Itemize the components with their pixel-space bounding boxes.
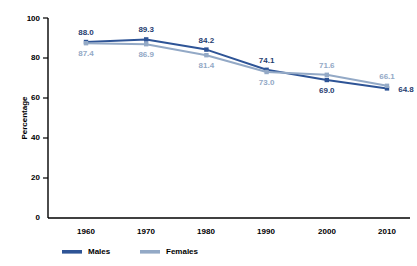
data-point-marker (325, 78, 329, 82)
data-point-marker (204, 53, 208, 57)
x-tick-label-1960: 1960 (77, 227, 95, 236)
data-point-marker (325, 73, 329, 77)
chart-container: 100 80 60 40 20 0 Percentage 1960 1970 1… (0, 0, 417, 266)
x-tick-label-1980: 1980 (197, 227, 215, 236)
legend-swatch-males (62, 250, 82, 254)
x-tick-label-1990: 1990 (257, 227, 275, 236)
x-tick-label-1970: 1970 (137, 227, 155, 236)
data-point-marker (144, 37, 148, 41)
data-label-females-1960: 87.4 (78, 49, 94, 58)
data-label-males-2000: 69.0 (319, 86, 335, 95)
y-tick-label-40: 40 (31, 133, 40, 142)
data-point-marker (84, 41, 88, 45)
line-chart: 100 80 60 40 20 0 Percentage 1960 1970 1… (0, 0, 417, 266)
y-tick-label-100: 100 (27, 14, 41, 23)
data-point-marker (264, 70, 268, 74)
y-tick-label-80: 80 (31, 53, 40, 62)
y-tick-label-0: 0 (36, 213, 41, 222)
data-label-females-1990: 73.0 (259, 78, 275, 87)
y-axis-ticks (43, 18, 48, 178)
data-label-females-2010: 66.1 (379, 72, 395, 81)
y-axis-title: Percentage (20, 96, 29, 140)
legend-swatch-females (140, 250, 160, 254)
y-tick-label-20: 20 (31, 173, 40, 182)
series-layer (84, 37, 389, 90)
series-line-females (86, 43, 387, 86)
data-point-marker (385, 84, 389, 88)
data-label-males-1960: 88.0 (78, 28, 94, 37)
y-tick-label-60: 60 (31, 93, 40, 102)
data-label-males-1980: 84.2 (199, 36, 215, 45)
data-point-marker (204, 47, 208, 51)
data-label-males-2010: 64.8 (398, 85, 414, 94)
x-tick-label-2000: 2000 (318, 227, 336, 236)
legend-label-males: Males (88, 247, 111, 256)
data-label-females-1970: 86.9 (138, 50, 154, 59)
data-point-marker (144, 42, 148, 46)
legend: Males Females (62, 247, 199, 256)
legend-label-females: Females (166, 247, 199, 256)
data-label-females-2000: 71.6 (319, 61, 335, 70)
data-label-males-1970: 89.3 (138, 25, 154, 34)
data-label-females-1980: 81.4 (199, 61, 215, 70)
data-label-males-1990: 74.1 (259, 56, 275, 65)
x-tick-label-2010: 2010 (378, 227, 396, 236)
